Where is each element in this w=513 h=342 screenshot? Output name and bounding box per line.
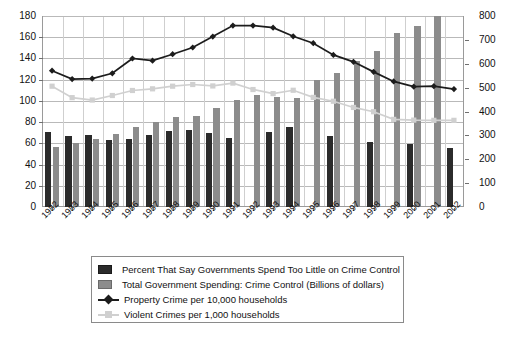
y-axis-right-tick-label: 600 <box>479 59 496 69</box>
y-axis-left-tick-label: 20 <box>6 181 36 191</box>
legend-line-square-icon <box>98 309 119 320</box>
legend-label: Violent Crimes per 1,000 households <box>121 307 280 322</box>
y-axis-left-tick <box>39 143 43 144</box>
marker-violent-crime <box>431 118 436 123</box>
y-axis-right-tick <box>465 64 469 65</box>
marker-violent-crime <box>311 95 316 100</box>
marker-violent-crime <box>351 105 356 110</box>
chart-legend: Percent That Say Governments Spend Too L… <box>91 256 404 323</box>
marker-violent-crime <box>331 99 336 104</box>
marker-violent-crime <box>250 87 255 92</box>
marker-violent-crime <box>270 91 275 96</box>
marker-property-crime <box>391 78 397 84</box>
x-axis-labels: 1982198319841985198619871988198919901991… <box>42 208 464 254</box>
y-axis-right-tick <box>465 183 469 184</box>
legend-item: Violent Crimes per 1,000 households <box>98 307 397 322</box>
legend-label: Property Crime per 10,000 households <box>121 292 287 307</box>
y-axis-left-tick <box>39 186 43 187</box>
y-axis-left-tick <box>39 122 43 123</box>
y-axis-right-tick <box>465 88 469 89</box>
y-axis-left-tick <box>39 58 43 59</box>
marker-violent-crime <box>291 88 296 93</box>
marker-violent-crime <box>391 117 396 122</box>
y-axis-left-tick-label: 80 <box>6 117 36 127</box>
chart-container: 020406080100120140160180 010020030040050… <box>0 0 513 342</box>
y-axis-left-tick-label: 0 <box>6 202 36 212</box>
marker-violent-crime <box>110 93 115 98</box>
y-axis-left-tick-label: 160 <box>6 32 36 42</box>
y-axis-left-tick <box>39 101 43 102</box>
y-axis-right-tick <box>465 135 469 136</box>
y-axis-right-tick-label: 200 <box>479 154 496 164</box>
y-axis-left-tick-label: 100 <box>6 96 36 106</box>
legend-label: Percent That Say Governments Spend Too L… <box>119 262 400 277</box>
marker-property-crime <box>290 33 296 39</box>
legend-item: Property Crime per 10,000 households <box>98 292 397 307</box>
marker-property-crime <box>411 84 417 90</box>
legend-swatch-dark-icon <box>98 265 112 274</box>
marker-property-crime <box>270 25 276 31</box>
marker-violent-crime <box>451 118 456 123</box>
y-axis-right-tick-label: 700 <box>479 35 496 45</box>
marker-violent-crime <box>210 83 215 88</box>
y-axis-left-tick-label: 40 <box>6 160 36 170</box>
marker-property-crime <box>431 83 437 89</box>
legend-label: Total Government Spending: Crime Control… <box>119 277 384 292</box>
marker-property-crime <box>210 33 216 39</box>
y-axis-right-tick-label: 500 <box>479 83 496 93</box>
marker-violent-crime <box>70 95 75 100</box>
legend-item: Total Government Spending: Crime Control… <box>98 277 397 292</box>
y-axis-right-tick-label: 0 <box>479 202 485 212</box>
marker-property-crime <box>250 22 256 28</box>
y-axis-right-tick <box>465 40 469 41</box>
line-series-layer <box>42 16 464 207</box>
marker-property-crime <box>190 44 196 50</box>
legend-swatch-gray-icon <box>98 280 112 289</box>
marker-violent-crime <box>150 86 155 91</box>
marker-property-crime <box>49 68 55 74</box>
y-axis-left-tick-label: 140 <box>6 53 36 63</box>
marker-violent-crime <box>411 117 416 122</box>
marker-property-crime <box>89 75 95 81</box>
marker-property-crime <box>350 59 356 65</box>
marker-property-crime <box>370 69 376 75</box>
y-axis-right-tick-label: 300 <box>479 130 496 140</box>
marker-property-crime <box>230 22 236 28</box>
y-axis-left-tick <box>39 165 43 166</box>
legend-item: Percent That Say Governments Spend Too L… <box>98 262 397 277</box>
y-axis-right-tick-label: 400 <box>479 107 496 117</box>
marker-violent-crime <box>49 84 54 89</box>
marker-property-crime <box>149 58 155 64</box>
y-axis-left-tick-label: 60 <box>6 138 36 148</box>
marker-property-crime <box>170 51 176 57</box>
marker-violent-crime <box>230 80 235 85</box>
marker-violent-crime <box>190 82 195 87</box>
legend-line-diamond-icon <box>98 294 119 305</box>
y-axis-left-tick <box>39 37 43 38</box>
marker-violent-crime <box>371 109 376 114</box>
marker-violent-crime <box>90 97 95 102</box>
marker-violent-crime <box>170 84 175 89</box>
y-axis-left-tick <box>39 80 43 81</box>
y-axis-left-tick-label: 180 <box>6 11 36 21</box>
y-axis-right-tick <box>465 159 469 160</box>
marker-property-crime <box>69 76 75 82</box>
y-axis-right-tick-label: 100 <box>479 178 496 188</box>
y-axis-right-tick <box>465 112 469 113</box>
y-axis-right-tick-label: 800 <box>479 11 496 21</box>
marker-property-crime <box>451 86 457 92</box>
y-axis-left-tick-label: 120 <box>6 75 36 85</box>
marker-violent-crime <box>130 88 135 93</box>
